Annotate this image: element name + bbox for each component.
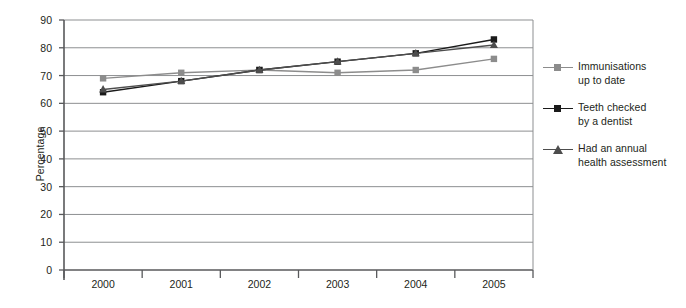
x-tick-label: 2004 [386, 279, 446, 290]
y-tick-label: 60 [22, 98, 52, 109]
y-tick-label: 80 [22, 43, 52, 54]
y-tick-label: 50 [22, 126, 52, 137]
legend-marker-square-icon [554, 64, 561, 71]
y-tick-label: 20 [22, 209, 52, 220]
y-tick-label: 30 [22, 182, 52, 193]
x-axis-tick-marks [64, 270, 533, 278]
legend-key [543, 102, 573, 116]
legend-key [543, 143, 573, 157]
gridlines [64, 20, 533, 242]
y-tick-label: 10 [22, 237, 52, 248]
legend-label: Had an annualhealth assessment [578, 142, 666, 169]
data-point-marker [491, 56, 497, 62]
axes [64, 20, 533, 280]
legend-label-line1: Had an annual [578, 142, 666, 156]
legend-entry: Immunisationsup to date [543, 60, 686, 87]
x-tick-label: 2002 [229, 279, 289, 290]
x-tick-label: 2005 [464, 279, 524, 290]
legend-label-line1: Teeth checked [578, 101, 646, 115]
legend-marker-triangle-icon [553, 145, 563, 154]
x-tick-label: 2003 [308, 279, 368, 290]
legend-label: Immunisationsup to date [578, 60, 646, 87]
line-chart: Percentage 0102030405060708090 200020012… [0, 0, 686, 308]
legend: Immunisationsup to dateTeeth checkedby a… [543, 60, 686, 183]
legend-entry: Teeth checkedby a dentist [543, 101, 686, 128]
legend-label-line2: health assessment [578, 156, 666, 170]
x-tick-label: 2000 [73, 279, 133, 290]
legend-label-line2: by a dentist [578, 115, 646, 129]
data-point-marker [178, 70, 184, 76]
data-point-marker [100, 75, 106, 81]
legend-entry: Had an annualhealth assessment [543, 142, 686, 169]
data-point-marker [334, 70, 340, 76]
legend-label: Teeth checkedby a dentist [578, 101, 646, 128]
x-tick-label: 2001 [151, 279, 211, 290]
y-tick-label: 40 [22, 154, 52, 165]
data-series [99, 36, 498, 95]
legend-label-line1: Immunisations [578, 60, 646, 74]
y-tick-label: 70 [22, 71, 52, 82]
y-tick-label: 90 [22, 15, 52, 26]
legend-marker-square-icon [554, 105, 561, 112]
y-tick-label: 0 [22, 265, 52, 276]
series-0 [100, 56, 497, 82]
legend-key [543, 61, 573, 75]
data-point-marker [413, 67, 419, 73]
legend-label-line2: up to date [578, 74, 646, 88]
